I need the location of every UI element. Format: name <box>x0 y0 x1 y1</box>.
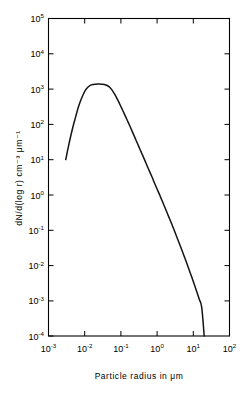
y-tick-exponent-9: 5 <box>41 12 45 19</box>
x-axis-ticks-bottom <box>49 331 230 336</box>
y-axis-label: dN/d(log r) cm⁻³ μm⁻¹ <box>14 130 24 225</box>
x-axis-tick-labels: 10-3 10-2 10-1 100 101 102 <box>41 342 237 354</box>
svg-text:10-3: 10-3 <box>41 342 57 354</box>
y-tick-mantissa-3: 10 <box>28 226 38 236</box>
figure-container: 105 104 103 102 101 100 10-1 10-2 <box>0 0 248 395</box>
x-tick-exponent-0: -3 <box>51 342 57 349</box>
svg-text:103: 103 <box>31 83 45 95</box>
y-tick-exponent-4: 0 <box>41 189 45 196</box>
y-tick-mantissa-6: 10 <box>31 120 41 130</box>
svg-text:10-1: 10-1 <box>113 342 129 354</box>
y-tick-mantissa-7: 10 <box>31 85 41 95</box>
svg-text:10-2: 10-2 <box>77 342 93 354</box>
svg-text:102: 102 <box>31 118 45 130</box>
plot-frame <box>49 19 230 337</box>
y-tick-exponent-6: 2 <box>41 118 45 125</box>
x-axis-ticks-top <box>49 19 230 24</box>
x-tick-exponent-5: 2 <box>233 342 237 349</box>
svg-text:101: 101 <box>187 342 201 354</box>
y-tick-mantissa-4: 10 <box>31 191 41 201</box>
x-tick-exponent-3: 0 <box>160 342 164 349</box>
y-axis-tick-labels: 105 104 103 102 101 100 10-1 10-2 <box>28 12 44 341</box>
x-tick-exponent-2: -1 <box>123 342 129 349</box>
y-tick-mantissa-0: 10 <box>28 332 38 342</box>
y-tick-exponent-8: 4 <box>41 48 45 55</box>
y-tick-exponent-2: -2 <box>38 260 44 267</box>
y-tick-mantissa-9: 10 <box>31 14 41 24</box>
svg-text:100: 100 <box>150 342 164 354</box>
x-tick-mantissa-1: 10 <box>77 344 87 354</box>
y-tick-mantissa-2: 10 <box>28 261 38 271</box>
y-tick-exponent-5: 1 <box>41 154 45 161</box>
x-tick-mantissa-2: 10 <box>113 344 123 354</box>
y-tick-exponent-3: -1 <box>38 224 44 231</box>
x-tick-exponent-4: 1 <box>197 342 201 349</box>
svg-text:10-3: 10-3 <box>28 295 44 307</box>
y-tick-exponent-0: -4 <box>38 330 44 337</box>
x-tick-mantissa-0: 10 <box>41 344 51 354</box>
svg-text:10-4: 10-4 <box>28 330 44 342</box>
svg-text:102: 102 <box>223 342 237 354</box>
y-axis-ticks-left <box>49 19 54 337</box>
aerosol-size-distribution-curve <box>66 84 204 336</box>
y-axis-ticks-right <box>225 54 230 301</box>
x-axis-label: Particle radius in μm <box>95 371 184 381</box>
svg-text:101: 101 <box>31 154 45 166</box>
svg-text:104: 104 <box>31 48 45 60</box>
x-tick-mantissa-3: 10 <box>150 344 160 354</box>
x-tick-exponent-1: -2 <box>87 342 93 349</box>
y-tick-mantissa-8: 10 <box>31 49 41 59</box>
svg-text:10-2: 10-2 <box>28 260 44 272</box>
particle-size-distribution-chart: 105 104 103 102 101 100 10-1 10-2 <box>0 0 248 395</box>
svg-text:100: 100 <box>31 189 45 201</box>
y-tick-exponent-1: -3 <box>38 295 44 302</box>
y-tick-mantissa-5: 10 <box>31 155 41 165</box>
x-tick-mantissa-5: 10 <box>223 344 233 354</box>
x-tick-mantissa-4: 10 <box>187 344 197 354</box>
y-tick-exponent-7: 3 <box>41 83 45 90</box>
svg-text:10-1: 10-1 <box>28 224 44 236</box>
y-tick-mantissa-1: 10 <box>28 296 38 306</box>
svg-text:105: 105 <box>31 12 45 24</box>
